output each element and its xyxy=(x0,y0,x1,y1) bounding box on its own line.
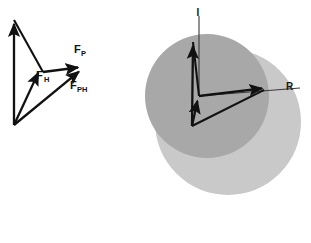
f-ph-label-group: F PH xyxy=(70,79,87,94)
apex-to-mid-line xyxy=(14,20,43,72)
f-h-vector-line xyxy=(14,73,38,125)
f-h-label-base: F xyxy=(36,69,43,81)
f-p-label-base: F xyxy=(74,43,81,55)
incident-axis-label: I xyxy=(197,7,200,18)
f-ph-label-base: F xyxy=(70,79,77,91)
up-left-vector-line xyxy=(192,46,193,126)
f-p-label-group: F P xyxy=(74,43,86,58)
sphere-group xyxy=(145,34,301,195)
force-connector-group xyxy=(14,20,43,72)
f-h-label-subscript: H xyxy=(44,75,49,84)
f-p-label-subscript: P xyxy=(81,49,86,58)
f-p-vector-line xyxy=(43,68,78,72)
f-ph-label-subscript: PH xyxy=(77,85,87,94)
vector-diagram-svg: I R F P F PH F H xyxy=(0,0,311,243)
figure-canvas: I R F P F PH F H xyxy=(0,0,311,243)
reflection-axis-label: R xyxy=(286,81,294,92)
